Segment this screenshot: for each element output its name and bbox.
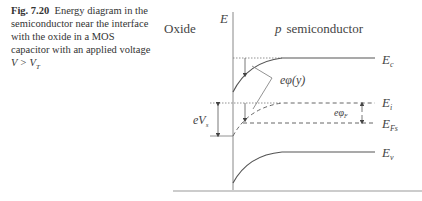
- valence-band-edge: [233, 152, 375, 183]
- ev-label: Ev: [381, 145, 394, 162]
- phi-leader: [252, 66, 272, 109]
- phi-f-label: eφF: [334, 107, 348, 119]
- ec-label: Ec: [381, 52, 394, 69]
- phi-y-label: eφ(y): [280, 73, 305, 87]
- region-label: psemiconductor: [274, 21, 364, 36]
- energy-band-diagram: Oxide E psemiconductor Ec Ei EFs Ev eφ(y…: [0, 0, 422, 201]
- oxide-label: Oxide: [164, 21, 196, 36]
- axis-label-e: E: [219, 11, 228, 26]
- efs-label: EFs: [381, 116, 398, 133]
- intrinsic-level: [233, 103, 375, 136]
- ei-label: Ei: [381, 95, 392, 112]
- evs-label: eVs: [193, 113, 209, 129]
